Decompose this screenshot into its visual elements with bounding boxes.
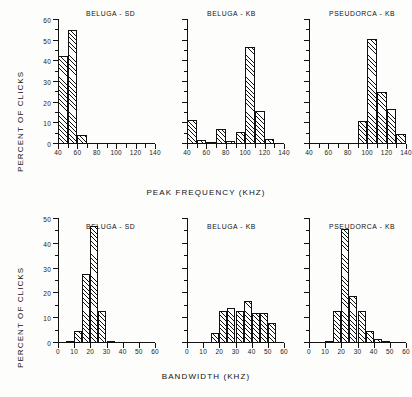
y-tick-minor bbox=[184, 230, 188, 231]
x-tick-label: 60 bbox=[325, 149, 333, 156]
x-tick-label: 40 bbox=[183, 149, 191, 156]
y-tick bbox=[304, 60, 310, 61]
y-tick-minor bbox=[55, 230, 59, 231]
histogram-bar bbox=[90, 226, 98, 343]
histogram-bar bbox=[216, 129, 226, 145]
histogram-bar bbox=[358, 311, 366, 343]
y-tick-minor bbox=[184, 50, 188, 51]
y-axis-line bbox=[58, 219, 59, 343]
histogram-bar bbox=[268, 323, 276, 343]
y-tick-label: 0 bbox=[47, 340, 51, 347]
y-axis-line bbox=[309, 219, 310, 343]
y-tick-label: 10 bbox=[43, 315, 51, 322]
y-tick bbox=[304, 102, 310, 103]
x-tick-label: 0 bbox=[56, 348, 60, 355]
x-tick-label: 80 bbox=[344, 149, 352, 156]
y-tick-minor bbox=[306, 71, 310, 72]
histogram-bar bbox=[366, 331, 374, 343]
x-tick-label: 40 bbox=[248, 348, 256, 355]
plot-area: 0102030405060 bbox=[309, 219, 406, 343]
x-tick-label: 140 bbox=[400, 149, 411, 156]
x-tick-label: 30 bbox=[103, 348, 111, 355]
x-tick bbox=[216, 144, 217, 148]
x-tick bbox=[319, 144, 320, 148]
histogram-bar bbox=[197, 140, 207, 144]
x-tick-label: 40 bbox=[370, 348, 378, 355]
histogram-bar bbox=[377, 92, 387, 144]
x-axis-label-bandwidth: BANDWIDTH (KHZ) bbox=[0, 372, 412, 381]
y-tick-minor bbox=[306, 91, 310, 92]
y-tick bbox=[304, 81, 310, 82]
histogram-bar bbox=[244, 301, 252, 343]
x-tick-label: 140 bbox=[149, 149, 160, 156]
y-tick-minor bbox=[184, 91, 188, 92]
x-tick-label: 60 bbox=[74, 149, 82, 156]
y-tick-minor bbox=[306, 230, 310, 231]
histogram-bar bbox=[265, 139, 275, 144]
y-tick-minor bbox=[55, 255, 59, 256]
y-tick-minor bbox=[184, 71, 188, 72]
histogram-bar bbox=[58, 56, 68, 144]
x-tick-label: 50 bbox=[135, 348, 143, 355]
panel-title: PSEUDORCA - KB bbox=[329, 10, 395, 17]
histogram-bar bbox=[382, 341, 390, 343]
y-tick bbox=[182, 268, 188, 269]
x-tick-label: 80 bbox=[93, 149, 101, 156]
histogram-bar bbox=[187, 120, 197, 144]
y-tick-label: 50 bbox=[43, 216, 51, 223]
x-tick bbox=[274, 144, 275, 148]
y-tick bbox=[182, 40, 188, 41]
y-tick-minor bbox=[55, 330, 59, 331]
y-axis-label-top: PERCENT OF CLICKS bbox=[16, 71, 25, 172]
histogram-bar bbox=[66, 341, 74, 343]
histogram-bar bbox=[82, 274, 90, 343]
x-tick-label: 50 bbox=[264, 348, 272, 355]
histogram-bar bbox=[396, 134, 406, 144]
x-tick-label: 100 bbox=[110, 149, 121, 156]
histogram-bar bbox=[349, 296, 357, 343]
panel-beluga-sd-bandwidth: BELUGA - SD010203040500102030405060 bbox=[34, 209, 159, 369]
x-tick-label: 60 bbox=[402, 348, 410, 355]
y-tick bbox=[304, 268, 310, 269]
histogram-bar bbox=[98, 311, 106, 343]
panel-beluga-kb-bandwidth: BELUGA - KB0102030405060 bbox=[163, 209, 288, 369]
y-tick-minor bbox=[306, 330, 310, 331]
panel-beluga-sd-peak-frequency: BELUGA - SD0102030405060406080100120140 bbox=[34, 10, 159, 170]
x-tick-label: 10 bbox=[199, 348, 207, 355]
plot-area: 010203040500102030405060 bbox=[58, 219, 155, 343]
histogram-bar bbox=[252, 313, 260, 343]
histogram-bar bbox=[374, 339, 382, 343]
histogram-bar bbox=[219, 311, 227, 343]
histogram-bar bbox=[227, 308, 235, 343]
histogram-figure: BELUGA - SD0102030405060406080100120140 … bbox=[0, 0, 412, 397]
x-tick-label: 120 bbox=[130, 149, 141, 156]
x-tick-label: 20 bbox=[216, 348, 224, 355]
x-tick-label: 100 bbox=[239, 149, 250, 156]
y-tick-label: 30 bbox=[43, 79, 51, 86]
histogram-bar bbox=[358, 121, 368, 144]
x-tick-label: 0 bbox=[185, 348, 189, 355]
y-tick-minor bbox=[184, 305, 188, 306]
histogram-bar bbox=[77, 135, 87, 144]
histogram-bar bbox=[226, 141, 236, 144]
y-tick bbox=[182, 243, 188, 244]
y-tick-minor bbox=[55, 29, 59, 30]
y-tick-minor bbox=[306, 305, 310, 306]
y-tick-minor bbox=[184, 29, 188, 30]
x-tick-label: 20 bbox=[87, 348, 95, 355]
plot-area: 406080100120140 bbox=[187, 20, 284, 144]
y-tick-label: 40 bbox=[43, 240, 51, 247]
y-tick-label: 40 bbox=[43, 58, 51, 65]
y-tick bbox=[182, 81, 188, 82]
plot-area: 0102030405060 bbox=[187, 219, 284, 343]
histogram-bar bbox=[68, 30, 78, 144]
histogram-bar bbox=[107, 341, 115, 343]
y-tick bbox=[53, 243, 59, 244]
top-row-panels: BELUGA - SD0102030405060406080100120140 … bbox=[0, 0, 412, 198]
histogram-bar bbox=[387, 109, 397, 144]
y-tick bbox=[182, 317, 188, 318]
histogram-bar bbox=[245, 47, 255, 144]
y-tick-label: 60 bbox=[43, 17, 51, 24]
y-tick bbox=[304, 122, 310, 123]
panel-pseudorca-kb-peak-frequency: PSEUDORCA - KB406080100120140 bbox=[285, 10, 410, 170]
